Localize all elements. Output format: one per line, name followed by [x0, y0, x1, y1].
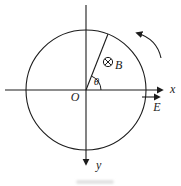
circular-field-region-figure: x y O θ B E — [0, 0, 181, 186]
origin-label: O — [71, 90, 80, 104]
rotation-arrow-icon — [137, 33, 161, 58]
y-axis-label: y — [95, 158, 102, 172]
field-into-page-icon — [103, 57, 112, 66]
electric-field-label: E — [152, 100, 161, 114]
magnetic-field-label: B — [115, 58, 123, 72]
physics-diagram: x y O θ B E — [0, 0, 181, 186]
caption-remnant — [76, 180, 114, 184]
angle-label: θ — [94, 75, 100, 87]
x-axis-label: x — [169, 82, 176, 96]
